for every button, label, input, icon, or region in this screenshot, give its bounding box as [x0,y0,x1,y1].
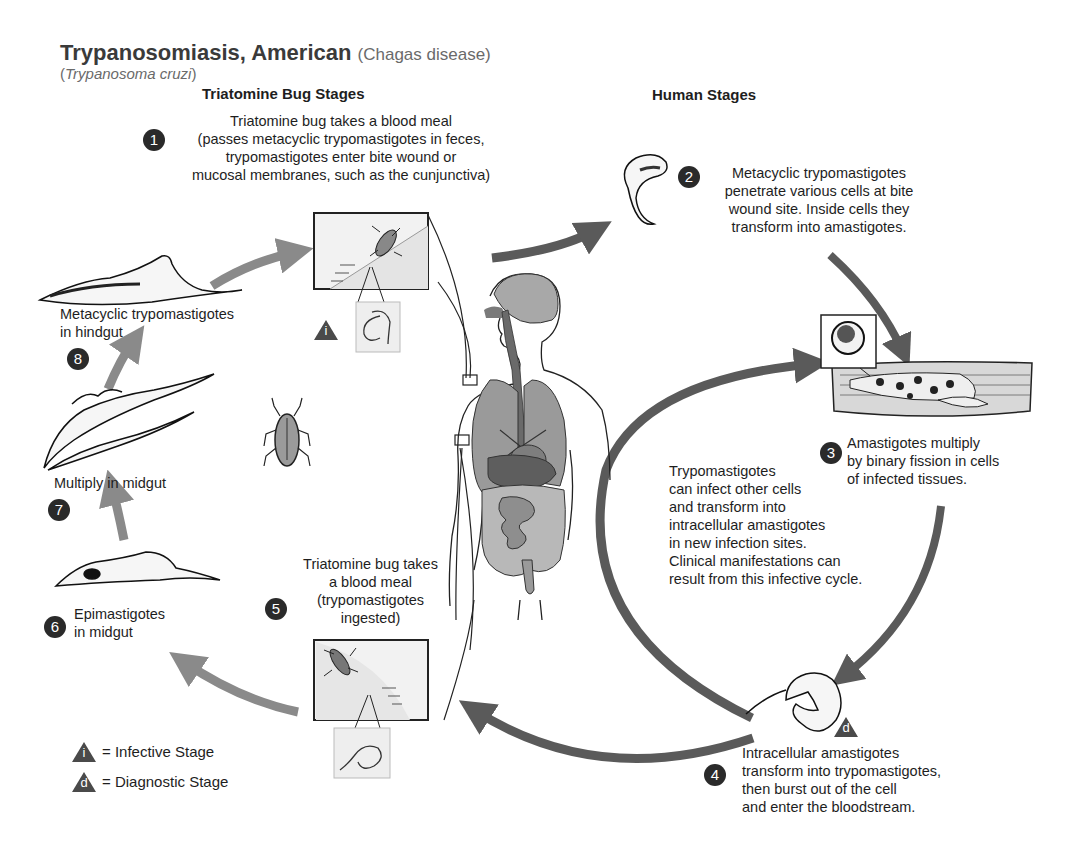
inset-trypomastigote-5 [334,728,390,778]
step-1-badge: 1 [143,129,165,151]
metacyclic-trypomastigote-hindgut [40,256,242,305]
step-5-description: Triatomine bug takes a blood meal (trypo… [288,555,453,627]
diagnostic-stage-icon: d [72,772,96,792]
page-subtitle: (Trypanosoma cruzi) [60,65,196,82]
arrow-6-to-7 [112,487,124,540]
step-7-badge: 7 [48,499,70,521]
arrow-7-to-8 [108,340,134,389]
infective-cycle-note: Trypomastigotes can infect other cells a… [669,462,909,588]
step-8-badge: 8 [67,348,89,370]
epimastigote-midgut [56,552,220,586]
step-4-description: Intracellular amastigotes transform into… [742,744,1062,816]
triatomine-bug-drawing [264,398,310,466]
bite-site-marker-lower [455,435,469,445]
step-4-badge: 4 [704,764,726,786]
step-2-description: Metacyclic trypomastigotes penetrate var… [698,164,940,236]
arrow-8-to-1 [212,252,296,286]
step-2-badge: 2 [678,166,700,188]
bug-feeding-box-1 [314,213,428,289]
section-heading-bug: Triatomine Bug Stages [202,85,365,102]
page-title: Trypanosomiasis, American (Chagas diseas… [60,40,491,66]
arrow-4-to-5 [474,710,753,758]
infective-stage-icon: i [72,742,96,762]
inset-trypomastigote-1 [356,302,400,352]
title-common-name: (Chagas disease) [358,45,491,64]
step-6-description: Epimastigotes in midgut [74,605,214,641]
bug-feeding-box-5 [314,640,428,720]
metacyclic-trypomastigote-human [624,155,667,225]
arrow-1-to-2 [492,230,596,258]
step-1-description: Triatomine bug takes a blood meal (passe… [176,112,506,184]
infective-stage-marker: i [314,320,338,340]
step-6-badge: 6 [44,616,66,638]
step-3-badge: 3 [820,442,842,464]
life-cycle-illustration [0,0,1070,865]
step-8-description: Metacyclic trypomastigotes in hindgut [60,305,300,341]
dividing-epimastigotes-midgut [44,374,214,470]
trypomastigote-bloodstream [746,673,841,731]
arrow-5-to-6 [184,662,298,712]
diagnostic-stage-marker: d [834,717,858,737]
species-name: Trypanosoma cruzi [65,65,191,82]
section-heading-human: Human Stages [652,86,756,103]
step-7-description: Multiply in midgut [54,474,254,492]
step-5-badge: 5 [265,598,287,620]
title-main: Trypanosomiasis, American [60,40,351,65]
